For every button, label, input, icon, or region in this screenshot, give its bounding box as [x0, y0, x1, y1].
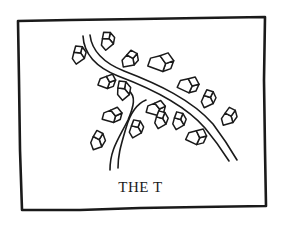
house-icon: [177, 72, 201, 95]
house-icon: [88, 129, 107, 150]
house-icon: [102, 104, 123, 124]
house-icon: [148, 48, 176, 74]
village-diagram: THE T: [0, 0, 281, 228]
house-icon: [219, 106, 238, 125]
house-icon: [121, 49, 139, 67]
diagram-caption: THE T: [0, 179, 281, 196]
house-icon: [198, 88, 218, 108]
house-icon: [169, 110, 189, 130]
house-icon: [96, 29, 117, 50]
